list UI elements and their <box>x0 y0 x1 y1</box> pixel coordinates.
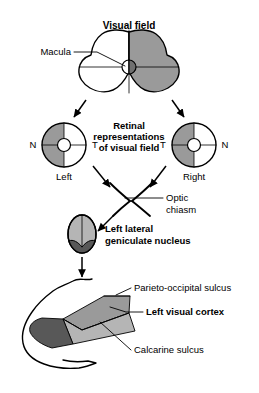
visual-pathway-figure: Macula Visual field N T Left T N <box>0 0 259 393</box>
optic-chiasm-label-line-2: chiasm <box>166 204 196 215</box>
optic-chiasm-label-line-1: Optic <box>166 192 188 203</box>
left-retina-nasal-label: N <box>30 139 37 150</box>
visual-field-group: Macula Visual field <box>40 20 179 93</box>
arrow-left-retina-to-chiasm <box>93 166 110 187</box>
retina-caption-line-2: representations <box>93 131 164 142</box>
parieto-occipital-sulcus-label: Parieto-occipital sulcus <box>134 282 231 293</box>
chiasm-lower-left-tract <box>113 201 130 216</box>
arrow-field-to-right-retina <box>172 100 184 117</box>
diagram-canvas: Macula Visual field N T Left T N <box>0 0 259 393</box>
macula-label: Macula <box>40 46 71 57</box>
optic-chiasm-group: Optic chiasm <box>110 183 196 216</box>
arrow-field-to-left-retina <box>74 100 86 117</box>
left-retina-caption: Left <box>56 171 72 182</box>
right-retina-group: T N Right <box>160 123 228 182</box>
left-retina-fovea <box>58 139 71 152</box>
visual-cortex-group: Parieto-occipital sulcus Left visual cor… <box>22 279 231 368</box>
left-visual-cortex-title: Left visual cortex <box>146 306 225 317</box>
lgn-label-line-2: geniculate nucleus <box>105 235 191 246</box>
retina-caption-line-1: Retinal <box>113 120 145 131</box>
right-retina-nasal-label: N <box>222 139 229 150</box>
visual-field-right-half <box>129 30 179 92</box>
visual-field-title: Visual field <box>103 20 156 31</box>
right-retina-fovea <box>188 139 201 152</box>
left-retina-group: N T Left <box>30 123 99 182</box>
right-retina-caption: Right <box>183 171 206 182</box>
lgn-group: Left lateral geniculate nucleus <box>68 215 191 254</box>
visual-field-left-half <box>79 30 129 92</box>
retina-caption-group: Retinal representations of visual field <box>93 120 164 153</box>
lgn-label-line-1: Left lateral <box>105 223 153 234</box>
chiasm-lower-right-tract <box>132 201 150 216</box>
retina-caption-line-3: of visual field <box>99 142 160 153</box>
parieto-occipital-sulcus-leader <box>116 288 131 295</box>
calcarine-sulcus-label: Calcarine sulcus <box>134 344 204 355</box>
